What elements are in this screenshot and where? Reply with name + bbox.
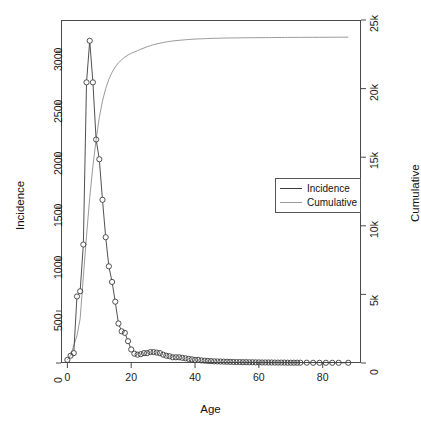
data-point [109,279,114,284]
legend-swatch-cumulative [280,202,302,203]
data-point [157,351,162,356]
legend: Incidence Cumulative [275,178,361,213]
data-point [84,80,89,85]
tick-label: 5k [368,295,380,306]
tick-label: 60 [247,371,271,383]
legend-swatch-incidence [280,188,302,189]
y-axis-title: Incidence [14,181,26,230]
data-point [125,339,130,344]
tick-label: 1000 [52,256,64,279]
data-point [87,38,92,43]
data-point [161,352,166,357]
data-point [81,242,86,247]
data-point [106,264,111,269]
tick-label: 10k [368,221,380,238]
data-point [116,321,121,326]
data-point [100,197,105,202]
tick-label: 20k [368,84,380,101]
data-point [132,351,137,356]
y2-axis-title: Cumulative [409,164,421,222]
data-point [103,235,108,240]
data-point [122,330,127,335]
legend-label-cumulative: Cumulative [307,197,357,208]
tick-label: 2500 [52,100,64,123]
tick-label: 500 [52,313,64,331]
chart-root: 02040608005001000150020002500300005k10k1… [0,0,421,428]
tick-label: 2000 [52,152,64,175]
data-point [330,360,335,365]
tick-label: 40 [183,371,207,383]
data-point [346,360,351,365]
data-point [317,360,322,365]
data-point [119,329,124,334]
legend-item-cumulative: Cumulative [280,195,357,210]
data-point [97,157,102,162]
x-axis-title: Age [0,403,421,415]
data-point [138,352,143,357]
tick-label: 0 [368,369,380,375]
tick-label: 1500 [52,204,64,227]
tick-label: 25k [368,15,380,32]
data-point [298,360,303,365]
tick-label: 20 [119,371,143,383]
tick-label: 80 [311,371,335,383]
data-point [113,299,118,304]
tick-label: 3000 [52,48,64,71]
data-point [323,360,328,365]
data-point [336,360,341,365]
data-point [145,351,150,356]
data-point [167,354,172,359]
data-point [90,80,95,85]
tick-label: 15k [368,152,380,169]
legend-item-incidence: Incidence [280,181,350,196]
data-point [304,360,309,365]
legend-label-incidence: Incidence [307,183,350,194]
data-point [74,294,79,299]
tick-label: 0 [52,377,64,383]
data-point [311,360,316,365]
